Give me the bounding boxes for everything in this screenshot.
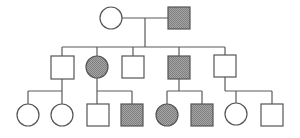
individual-female-unaffected bbox=[100, 7, 122, 29]
individual-female-unaffected bbox=[51, 104, 73, 126]
generation-ii-connectors bbox=[28, 77, 272, 104]
generation-ii bbox=[51, 55, 236, 79]
pedigree-diagram bbox=[0, 0, 300, 138]
generation-iii bbox=[17, 103, 283, 126]
individual-female-unaffected bbox=[225, 103, 247, 125]
individual-female-unaffected bbox=[17, 104, 39, 126]
individual-male-affected bbox=[191, 104, 213, 126]
generation-i-connectors bbox=[62, 18, 225, 56]
individual-male-affected bbox=[121, 104, 143, 126]
individual-male-unaffected bbox=[214, 55, 236, 77]
individual-male-affected bbox=[168, 7, 190, 29]
individual-male-unaffected bbox=[87, 104, 109, 126]
individual-male-unaffected bbox=[122, 56, 144, 78]
individual-male-unaffected bbox=[51, 56, 74, 79]
individual-female-affected bbox=[156, 104, 178, 126]
individual-male-affected bbox=[168, 56, 190, 79]
individual-female-affected bbox=[86, 56, 108, 78]
individual-male-unaffected bbox=[261, 104, 283, 126]
